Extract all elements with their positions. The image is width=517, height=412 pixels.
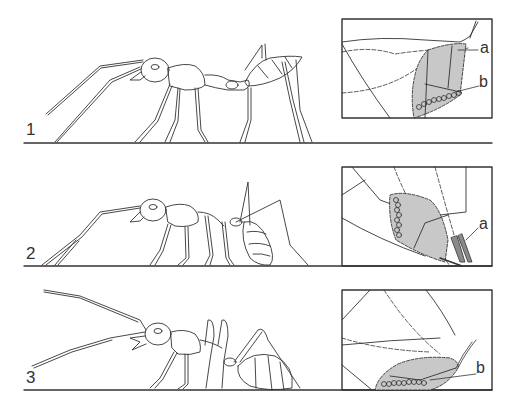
inset-1-label-b: b xyxy=(479,74,488,90)
panel-2 xyxy=(24,167,492,266)
panel-3 xyxy=(24,290,492,390)
panel-number-2: 2 xyxy=(26,244,35,264)
inset-2-label-a: a xyxy=(479,216,488,232)
inset-2 xyxy=(342,167,492,266)
inset-3-label-b: b xyxy=(476,360,485,376)
gland-region-1 xyxy=(412,44,466,118)
ant-3-illustration xyxy=(32,290,300,390)
panel-number-1: 1 xyxy=(26,120,35,140)
gland-region-3 xyxy=(375,357,458,390)
panel-number-3: 3 xyxy=(26,368,35,388)
inset-3 xyxy=(342,290,492,390)
inset-1-label-a: a xyxy=(480,40,489,56)
panel-1 xyxy=(24,19,492,143)
ant-1-illustration xyxy=(46,44,312,142)
figure-canvas xyxy=(0,0,517,412)
inset-1 xyxy=(342,19,492,118)
gaster-3 xyxy=(238,354,293,389)
ant-2-illustration xyxy=(42,182,308,265)
